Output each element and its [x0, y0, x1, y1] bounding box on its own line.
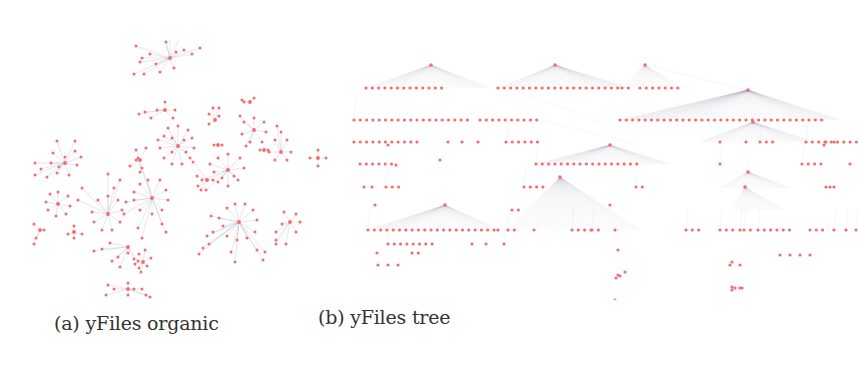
graph-node [150, 196, 154, 200]
graph-node [743, 185, 747, 189]
graph-node [618, 274, 621, 277]
edge [528, 65, 555, 88]
edge [555, 65, 603, 88]
graph-node [117, 256, 120, 259]
edge [508, 177, 560, 230]
graph-node [127, 252, 130, 255]
graph-node [252, 128, 256, 132]
graph-node [316, 156, 320, 160]
graph-node [126, 287, 130, 291]
edge [431, 65, 481, 88]
graph-node [364, 86, 367, 89]
graph-node [440, 86, 443, 89]
edge [541, 177, 560, 230]
graph-node [828, 185, 831, 188]
graph-node [213, 144, 216, 147]
edge [402, 65, 431, 88]
graph-node [517, 208, 520, 211]
graph-node [145, 294, 148, 297]
graph-node [107, 173, 110, 176]
graph-node [578, 86, 581, 89]
graph-node [707, 118, 710, 121]
graph-node [274, 159, 277, 162]
edge [748, 90, 810, 120]
edge [634, 65, 645, 88]
edge [744, 208, 746, 230]
edge [445, 205, 464, 230]
edge [160, 146, 178, 148]
graph-node [394, 163, 397, 166]
graph-node [718, 228, 721, 231]
graph-node [461, 228, 464, 231]
edge [445, 205, 482, 230]
graph-node [212, 231, 215, 234]
graph-node [137, 260, 140, 263]
graph-node [585, 86, 588, 89]
graph-node [246, 237, 249, 240]
graph-node [212, 107, 215, 110]
graph-node [769, 228, 772, 231]
edge [631, 65, 645, 88]
edge [368, 208, 370, 230]
graph-node [782, 118, 785, 121]
graph-node [559, 86, 562, 89]
graph-node [448, 228, 451, 231]
graph-node [226, 207, 229, 210]
graph-node [236, 239, 239, 242]
graph-node [398, 228, 401, 231]
graph-node [121, 209, 124, 212]
graph-node [577, 228, 580, 231]
graph-node [700, 118, 703, 121]
edge [228, 158, 240, 170]
graph-node [237, 220, 241, 224]
graph-node [202, 247, 205, 250]
graph-node [822, 143, 825, 146]
edge [720, 172, 748, 188]
edge [384, 65, 431, 88]
graph-node [80, 156, 83, 159]
graph-node [97, 199, 100, 202]
graph-node [757, 118, 760, 121]
edge [715, 122, 753, 142]
graph-node [460, 140, 463, 143]
graph-node [412, 242, 415, 245]
graph-node [532, 228, 535, 231]
graph-node [591, 162, 594, 165]
graph-node [731, 228, 734, 231]
graph-node [377, 86, 380, 89]
graph-node [262, 259, 265, 262]
graph-node [125, 201, 128, 204]
edge [508, 208, 510, 230]
edge [745, 187, 778, 210]
edge [514, 177, 560, 230]
caption-a: (a) yFiles organic [54, 312, 219, 334]
graph-node [359, 140, 362, 143]
edge [510, 88, 600, 122]
graph-node [91, 211, 94, 214]
graph-node [275, 231, 278, 234]
graph-node [212, 179, 215, 182]
graph-node [474, 228, 477, 231]
graph-node [423, 228, 426, 231]
graph-node [198, 253, 201, 256]
graph-node [466, 118, 469, 121]
graph-node [119, 221, 122, 224]
graph-node [221, 177, 224, 180]
edge [802, 142, 804, 164]
graph-node [620, 86, 623, 89]
graph-node [107, 284, 110, 287]
graph-node [429, 63, 433, 67]
graph-node [241, 99, 244, 102]
graph-node [384, 140, 387, 143]
graph-node [758, 140, 761, 143]
graph-node [208, 123, 211, 126]
tree-graph-drawing [340, 50, 859, 300]
graph-node [74, 150, 77, 153]
graph-node [222, 225, 225, 228]
graph-node [217, 181, 220, 184]
edge [152, 180, 160, 198]
graph-node [616, 86, 619, 89]
graph-node [478, 118, 481, 121]
graph-node [157, 139, 160, 142]
graph-node [141, 167, 144, 170]
